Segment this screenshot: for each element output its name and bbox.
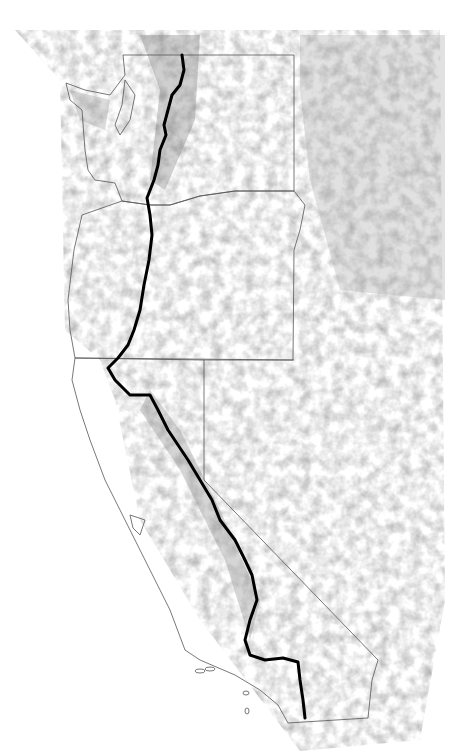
map-view[interactable] [0,0,456,751]
map-canvas [0,0,456,751]
